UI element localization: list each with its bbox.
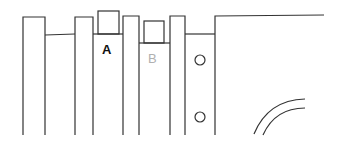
panel-5 xyxy=(215,15,324,135)
tab-a xyxy=(98,11,119,34)
tab-b xyxy=(144,21,164,43)
arc-outer xyxy=(254,99,305,134)
label-b: B xyxy=(148,51,157,66)
panel-3 xyxy=(123,16,139,135)
panel-4 xyxy=(170,16,185,135)
hole-bottom xyxy=(195,112,205,122)
panel-2 xyxy=(75,17,93,135)
label-a: A xyxy=(102,42,112,57)
diagram-canvas: A B xyxy=(0,0,338,146)
panel-1 xyxy=(23,17,45,135)
hole-top xyxy=(195,55,205,65)
connector-1 xyxy=(45,34,75,35)
